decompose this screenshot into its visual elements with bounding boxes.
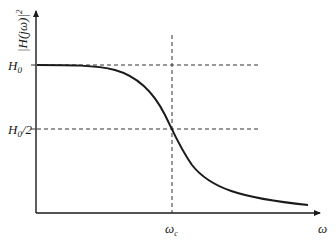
frequency-response-diagram: |H(jω)|2 H0 H0/2 ωc ω [0,0,336,246]
x-axis-label: ω [318,221,327,236]
y-axis-label: |H(jω)|2 [14,9,30,52]
h0-tick-label: H0 [7,58,22,75]
omega-c-tick-label: ωc [165,221,178,238]
h0-half-tick-label: H0/2 [7,122,33,139]
